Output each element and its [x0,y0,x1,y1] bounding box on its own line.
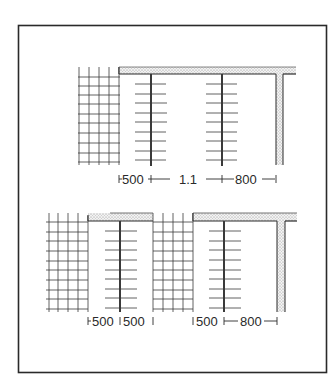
bottom-rack-2 [209,221,241,312]
bottom-grid-shelf-1 [46,213,88,312]
bottom-slab-2 [193,213,297,221]
top-column [276,74,283,165]
bottom-column [277,221,285,312]
bottom-grid-shelf-2 [153,213,193,312]
top-rack-2 [206,74,238,166]
bottom-slab-1 [88,213,153,221]
bottom-dim-800: 800 [240,314,262,329]
bottom-dim-500-a: 500 [92,314,114,329]
bottom-rack-1 [105,221,137,312]
top-slab [119,67,296,74]
top-rack-1 [135,74,167,166]
diagram-canvas: 500 1.1 800 [0,0,332,380]
top-dim-1-1: 1.1 [179,172,197,187]
top-grid-shelf [78,67,120,165]
top-dim-500: 500 [122,172,144,187]
bottom-diagram: 500 500 500 800 [46,213,297,329]
top-diagram: 500 1.1 800 [78,67,296,187]
bottom-dim-500-b: 500 [123,314,145,329]
top-dim-800: 800 [235,172,257,187]
bottom-dim-500-c: 500 [196,314,218,329]
